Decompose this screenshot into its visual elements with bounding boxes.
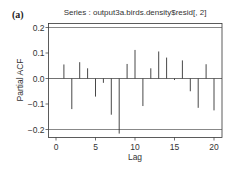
y-tick-label: −0.2: [28, 125, 45, 135]
y-tick-label: 0.0: [33, 74, 45, 84]
x-tick-label: 20: [209, 142, 219, 152]
panel-label: (a): [12, 9, 24, 21]
x-tick-label: 15: [170, 142, 180, 152]
chart-canvas: (a) Series : output3a.birds.density$resi…: [0, 0, 233, 170]
plot-frame: [49, 24, 223, 138]
y-tick-label: 0.1: [33, 48, 45, 58]
y-axis-label: Partial ACF: [15, 59, 25, 102]
x-tick-label: 10: [130, 142, 140, 152]
pacf-chart: (a) Series : output3a.birds.density$resi…: [0, 0, 233, 170]
plot-area: 0.20.10.0−0.1−0.205101520: [28, 23, 222, 152]
y-tick-label: 0.2: [33, 23, 45, 33]
x-tick-label: 5: [93, 142, 98, 152]
y-tick-label: −0.1: [28, 99, 45, 109]
chart-title: Series : output3a.birds.density$resid[, …: [64, 8, 207, 17]
x-tick-label: 0: [54, 142, 59, 152]
x-axis-label: Lag: [128, 152, 142, 162]
